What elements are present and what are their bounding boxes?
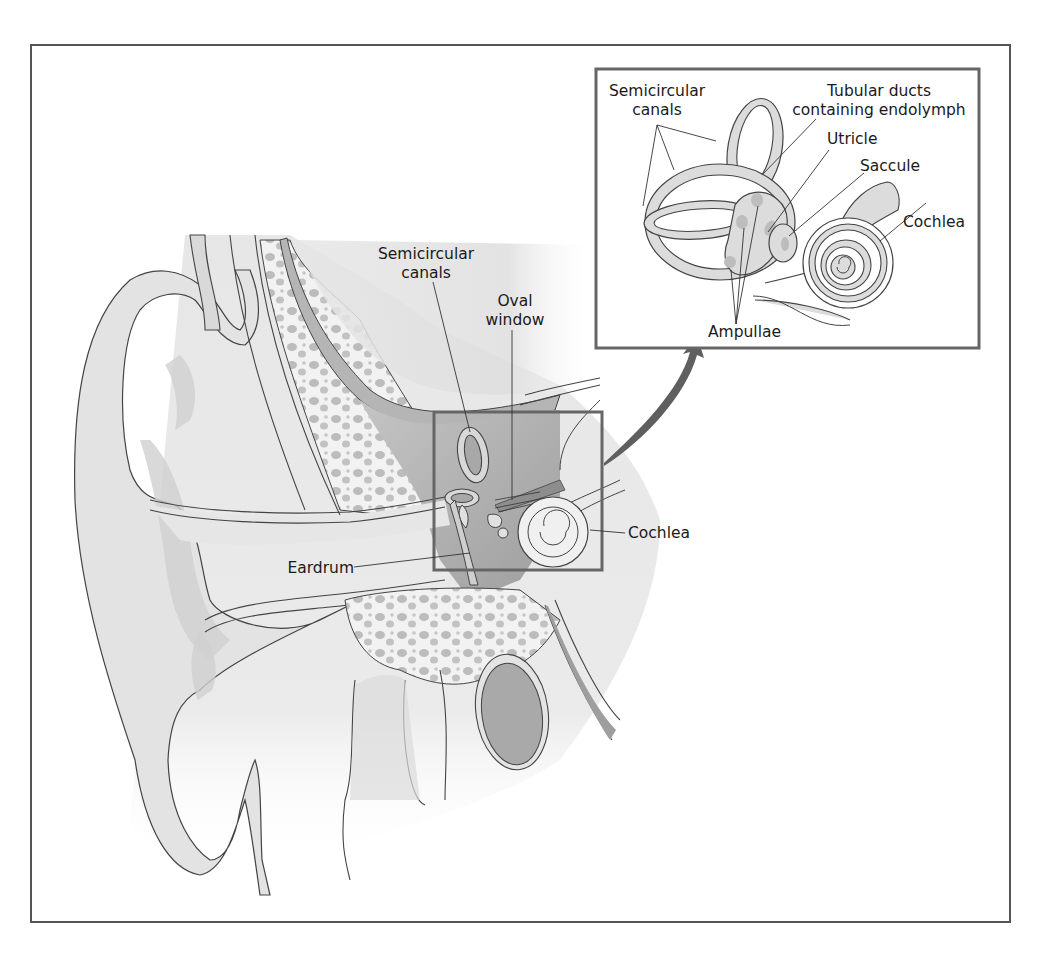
inset-label-saccule: Saccule [860, 157, 920, 176]
label-line: canals [371, 264, 481, 283]
label-line: Oval [480, 292, 550, 311]
inset-label-semicircular-canals: Semicircular canals [602, 82, 712, 120]
label-line: Semicircular [602, 82, 712, 101]
inset-label-tubular-ducts: Tubular ducts containing endolymph [784, 82, 974, 120]
label-line: window [480, 311, 550, 330]
inset-label-utricle: Utricle [827, 130, 877, 149]
label-line: containing endolymph [784, 101, 974, 120]
label-eardrum: Eardrum [274, 559, 354, 578]
label-line: Semicircular [371, 245, 481, 264]
inset-cochlea [803, 218, 893, 308]
ear-anatomy-figure: Semicircular canals Oval window Cochlea … [0, 0, 1038, 958]
label-line: canals [602, 101, 712, 120]
label-cochlea: Cochlea [628, 524, 690, 543]
label-semicircular-canals: Semicircular canals [371, 245, 481, 283]
label-line: Tubular ducts [784, 82, 974, 101]
ear-diagram-svg [0, 0, 1038, 958]
inset-label-cochlea: Cochlea [903, 213, 965, 232]
label-oval-window: Oval window [480, 292, 550, 330]
inset-label-ampullae: Ampullae [708, 323, 781, 342]
